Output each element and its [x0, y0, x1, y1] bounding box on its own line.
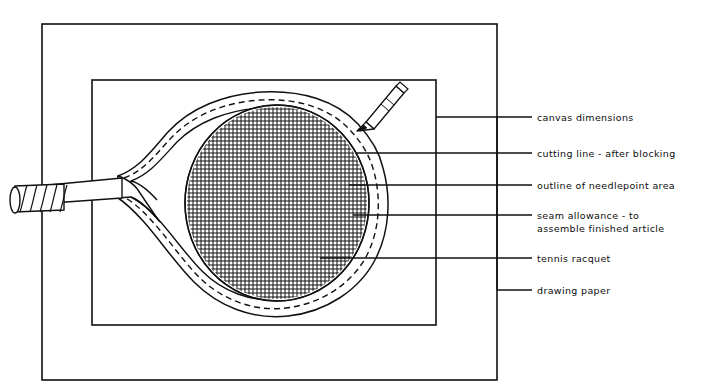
- callout-label-cutting-line: cutting line - after blocking: [537, 148, 676, 159]
- grip-end-cap: [10, 187, 20, 213]
- diagram-canvas: canvas dimensionscutting line - after bl…: [0, 0, 721, 389]
- callout-label-drawing-paper: drawing paper: [537, 285, 610, 296]
- callout-label-needlepoint-outline: outline of needlepoint area: [537, 180, 675, 191]
- callout-label-tennis-racquet: tennis racquet: [537, 253, 611, 264]
- callout-label-canvas-dimensions: canvas dimensions: [537, 112, 634, 123]
- racquet-handle-grip: [10, 184, 67, 213]
- needlepoint-racquet-diagram: canvas dimensionscutting line - after bl…: [0, 0, 721, 389]
